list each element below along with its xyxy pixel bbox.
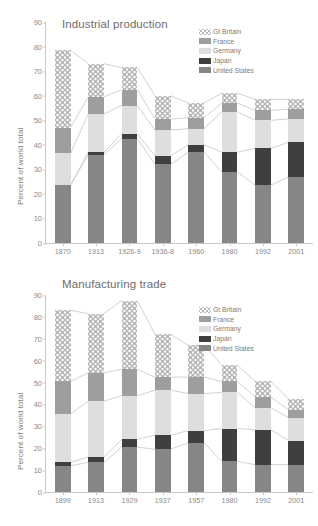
bar-segment-gb-1980 <box>222 365 238 381</box>
y-tick-20: 20 <box>34 444 46 453</box>
bar-segment-us-1957 <box>188 443 204 492</box>
bar-segment-gb-1992 <box>255 99 271 110</box>
bar-segment-gb-1937 <box>155 334 171 377</box>
bar-1992 <box>255 295 271 492</box>
bar-segment-japan-1992 <box>255 430 271 465</box>
y-tick-30: 30 <box>34 422 46 431</box>
bar-1899 <box>55 295 71 492</box>
plot-area-industrial-production: 0102030405060708090187019131926-91936-81… <box>45 22 313 244</box>
bar-segment-us-1936-8 <box>155 164 171 243</box>
bar-segment-japan-1960 <box>188 145 204 152</box>
legend-swatch-germany-icon <box>199 48 211 54</box>
bar-segment-gb-2001 <box>288 399 304 410</box>
bar-segment-us-1992 <box>255 465 271 492</box>
bar-segment-japan-2001 <box>288 142 304 176</box>
bar-segment-germany-1870 <box>55 153 71 185</box>
bar-segment-france-2001 <box>288 410 304 418</box>
bar-2001 <box>288 295 304 492</box>
bar-1926-9 <box>122 22 138 243</box>
bar-segment-gb-1926-9 <box>122 67 138 89</box>
y-tick-90: 90 <box>34 291 46 300</box>
y-tick-10: 10 <box>34 466 46 475</box>
x-tick-mark-1957 <box>196 492 197 495</box>
bar-1936-8 <box>155 22 171 243</box>
bar-segment-japan-1913 <box>88 457 104 462</box>
bar-segment-us-1929 <box>122 447 138 492</box>
bar-1913 <box>88 295 104 492</box>
legend-item-gb: Gt Britain <box>199 305 254 315</box>
bar-segment-us-1899 <box>55 466 71 492</box>
stack-connector-lines-top <box>46 22 314 244</box>
bar-segment-germany-1926-9 <box>122 106 138 134</box>
bar-segment-germany-1960 <box>188 129 204 145</box>
x-tick-label-1913: 1913 <box>88 496 104 505</box>
x-tick-label-1926-9: 1926-9 <box>118 247 140 256</box>
x-tick-label-1899: 1899 <box>55 496 71 505</box>
x-tick-mark-1926-9 <box>129 243 130 246</box>
bar-segment-japan-1926-9 <box>122 134 138 139</box>
x-tick-mark-2001 <box>296 243 297 246</box>
bar-segment-france-1899 <box>55 381 71 414</box>
bar-segment-germany-1899 <box>55 414 71 462</box>
bar-segment-germany-2001 <box>288 418 304 441</box>
bar-segment-japan-1937 <box>155 435 171 449</box>
y-tick-30: 30 <box>34 165 46 174</box>
bar-segment-japan-1936-8 <box>155 156 171 165</box>
legend-label-france: France <box>213 316 234 323</box>
bar-segment-france-1936-8 <box>155 119 171 130</box>
x-tick-mark-1992 <box>263 243 264 246</box>
bar-segment-gb-1980 <box>222 93 238 103</box>
bar-segment-france-1960 <box>188 118 204 129</box>
x-tick-mark-1937 <box>163 492 164 495</box>
bar-segment-france-1926-9 <box>122 90 138 106</box>
x-tick-mark-1913 <box>96 243 97 246</box>
bar-segment-gb-1899 <box>55 310 71 381</box>
legend-item-japan: Japan <box>199 334 254 344</box>
bar-segment-france-1937 <box>155 377 171 390</box>
legend-swatch-gb-icon <box>199 29 211 35</box>
plot-area-manufacturing-trade: 0102030405060708090189919131929193719571… <box>45 295 313 493</box>
y-tick-60: 60 <box>34 356 46 365</box>
bar-1870 <box>55 22 71 243</box>
figure-root: Industrial production Percent of world t… <box>0 0 318 526</box>
bar-segment-france-1870 <box>55 128 71 154</box>
bar-segment-germany-1913 <box>88 114 104 152</box>
bar-segment-germany-1936-8 <box>155 130 171 156</box>
bar-segment-gb-1913 <box>88 314 104 373</box>
y-tick-20: 20 <box>34 189 46 198</box>
bar-segment-gb-1960 <box>188 103 204 118</box>
y-tick-0: 0 <box>38 488 46 497</box>
legend-industrial-production: Gt BritainFranceGermanyJapanUnited State… <box>199 27 254 75</box>
legend-swatch-france-icon <box>199 316 211 322</box>
bar-segment-japan-1980 <box>222 429 238 462</box>
bar-segment-france-2001 <box>288 109 304 119</box>
bar-segment-us-1980 <box>222 461 238 492</box>
bar-segment-germany-1957 <box>188 394 204 431</box>
legend-item-us: United States <box>199 65 254 75</box>
x-tick-mark-1929 <box>129 492 130 495</box>
y-tick-70: 70 <box>34 67 46 76</box>
x-tick-mark-1899 <box>63 492 64 495</box>
legend-item-gb: Gt Britain <box>199 27 254 37</box>
x-tick-label-1980: 1980 <box>222 247 238 256</box>
chart-panel-manufacturing-trade: Manufacturing trade Percent of world tot… <box>0 265 318 526</box>
y-tick-90: 90 <box>34 18 46 27</box>
x-tick-label-1913: 1913 <box>88 247 104 256</box>
legend-label-us: United States <box>213 67 254 74</box>
legend-item-us: United States <box>199 343 254 353</box>
bar-segment-germany-2001 <box>288 119 304 142</box>
y-tick-50: 50 <box>34 116 46 125</box>
bar-segment-france-1992 <box>255 397 271 408</box>
bar-segment-us-1980 <box>222 172 238 243</box>
bar-1913 <box>88 22 104 243</box>
bar-segment-gb-1870 <box>55 50 71 127</box>
bar-segment-france-1980 <box>222 381 238 392</box>
x-tick-label-1937: 1937 <box>155 496 171 505</box>
bar-segment-germany-1913 <box>88 401 104 457</box>
bar-segment-japan-1913 <box>88 152 104 154</box>
y-tick-80: 80 <box>34 42 46 51</box>
x-tick-label-2001: 2001 <box>288 496 304 505</box>
legend-item-germany: Germany <box>199 324 254 334</box>
legend-swatch-japan-icon <box>199 336 211 342</box>
legend-swatch-us-icon <box>199 345 211 351</box>
